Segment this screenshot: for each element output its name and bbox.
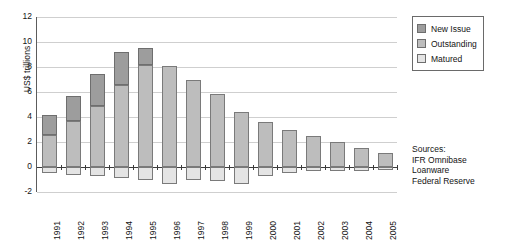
bar-group: [90, 17, 105, 192]
bar-segment-new-issue: [138, 48, 153, 64]
x-tick-label: 1994: [124, 200, 134, 240]
x-tick-label: 1996: [172, 200, 182, 240]
x-tick-mark: [301, 165, 302, 170]
x-tick-label: 1993: [100, 200, 110, 240]
x-tick-mark: [109, 165, 110, 170]
bar-segment-outstanding: [330, 142, 345, 167]
sources-ifr-omnibase: IFR Omnibase: [412, 155, 475, 166]
bar-group: [330, 17, 345, 192]
bar-group: [66, 17, 81, 192]
bar-segment-outstanding: [114, 85, 129, 168]
bar-segment-matured: [258, 167, 273, 176]
legend-swatch-outstanding: [417, 39, 426, 48]
y-tick-label: -2: [10, 187, 32, 195]
legend-label-outstanding: Outstanding: [431, 39, 477, 49]
bar-group: [378, 17, 393, 192]
bar-segment-matured: [330, 167, 345, 171]
bar-segment-outstanding: [210, 94, 225, 167]
bar-group: [354, 17, 369, 192]
bar-group: [186, 17, 201, 192]
bar-group: [210, 17, 225, 192]
y-tick-label: 2: [10, 137, 32, 145]
bar-segment-matured: [234, 167, 249, 184]
x-tick-label: 2003: [340, 200, 350, 240]
bar-group: [138, 17, 153, 192]
bar-segment-matured: [282, 167, 297, 173]
bar-group: [162, 17, 177, 192]
legend-swatch-matured: [417, 54, 426, 63]
sources-loanware: Loanware: [412, 165, 475, 176]
x-tick-mark: [325, 165, 326, 170]
legend-item-matured: Matured: [417, 51, 477, 66]
x-tick-mark: [397, 165, 398, 170]
y-tick-label: 6: [10, 87, 32, 95]
bar-segment-outstanding: [354, 148, 369, 167]
bar-segment-outstanding: [378, 153, 393, 167]
x-tick-mark: [373, 165, 374, 170]
x-tick-mark: [253, 165, 254, 170]
bar-segment-outstanding: [90, 106, 105, 167]
x-tick-label: 1991: [52, 200, 62, 240]
x-tick-label: 2004: [364, 200, 374, 240]
legend-item-new-issue: New Issue: [417, 21, 477, 36]
bar-segment-matured: [210, 167, 225, 181]
y-tick-label: 4: [10, 112, 32, 120]
bar-segment-matured: [162, 167, 177, 184]
y-tick-label: 12: [10, 12, 32, 20]
bar-segment-matured: [138, 167, 153, 180]
y-axis-ticks: 121086420-2: [8, 0, 32, 251]
sources-federal-reserve: Federal Reserve: [412, 176, 475, 187]
bar-segment-matured: [354, 167, 369, 171]
x-tick-label: 1997: [196, 200, 206, 240]
bar-segment-matured: [378, 167, 393, 170]
x-tick-label: 2005: [388, 200, 398, 240]
legend-label-new-issue: New Issue: [431, 24, 471, 34]
bar-segment-matured: [42, 167, 57, 173]
y-tick-label: 8: [10, 62, 32, 70]
bar-chart-figure: US$ trillions 121086420-2 19911992199319…: [0, 0, 512, 251]
legend-item-outstanding: Outstanding: [417, 36, 477, 51]
bar-group: [306, 17, 321, 192]
x-tick-mark: [157, 165, 158, 170]
x-tick-label: 1999: [244, 200, 254, 240]
x-axis-labels: 1991199219931994199519961997199819992000…: [36, 196, 396, 248]
bar-segment-outstanding: [42, 135, 57, 168]
x-tick-mark: [133, 165, 134, 170]
bar-segment-outstanding: [306, 136, 321, 167]
x-tick-mark: [85, 165, 86, 170]
bar-segment-matured: [66, 167, 81, 175]
plot-area: [36, 17, 396, 192]
bar-segment-new-issue: [42, 115, 57, 135]
x-tick-mark: [205, 165, 206, 170]
bar-segment-outstanding: [162, 66, 177, 167]
bar-segment-outstanding: [66, 121, 81, 167]
bar-segment-new-issue: [90, 74, 105, 106]
bar-group: [114, 17, 129, 192]
bar-segment-outstanding: [282, 130, 297, 168]
bar-group: [42, 17, 57, 192]
bar-group: [258, 17, 273, 192]
bar-segment-matured: [90, 167, 105, 176]
bar-segment-outstanding: [258, 122, 273, 167]
x-tick-mark: [181, 165, 182, 170]
sources-note: Sources: IFR Omnibase Loanware Federal R…: [412, 144, 475, 186]
x-tick-mark: [349, 165, 350, 170]
x-tick-mark: [277, 165, 278, 170]
x-tick-label: 1998: [220, 200, 230, 240]
y-tick-label: 10: [10, 37, 32, 45]
x-tick-mark: [61, 165, 62, 170]
x-tick-label: 1995: [148, 200, 158, 240]
bar-segment-outstanding: [234, 112, 249, 167]
y-tick-label: 0: [10, 162, 32, 170]
bar-segment-outstanding: [186, 80, 201, 168]
x-tick-mark: [229, 165, 230, 170]
legend-swatch-new-issue: [417, 24, 426, 33]
legend-label-matured: Matured: [431, 54, 462, 64]
x-tick-label: 2000: [268, 200, 278, 240]
x-tick-label: 1992: [76, 200, 86, 240]
bar-group: [234, 17, 249, 192]
bar-segment-matured: [186, 167, 201, 180]
chart-legend: New Issue Outstanding Matured: [412, 16, 484, 71]
bar-segment-new-issue: [114, 52, 129, 85]
x-tick-label: 2002: [316, 200, 326, 240]
